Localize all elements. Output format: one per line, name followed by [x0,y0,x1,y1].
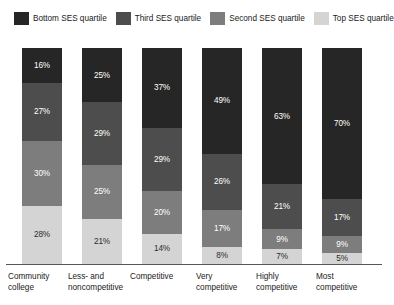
segment-value-label: 49% [214,96,230,105]
segment-value-label: 29% [154,155,170,164]
segment-value-label: 25% [94,187,110,196]
legend-label-third-ses-quartile: Third SES quartile [135,14,201,24]
segment-second-ses-quartile: 20% [142,191,182,234]
segment-bottom-ses-quartile: 63% [262,48,302,184]
segment-third-ses-quartile: 26% [202,154,242,210]
segment-value-label: 7% [276,252,288,261]
bar-column-competitive: 37% 29% 20% 14% [142,48,182,264]
legend-label-top-ses-quartile: Top SES quartile [333,14,394,24]
segment-top-ses-quartile: 14% [142,234,182,264]
segment-value-label: 28% [34,230,50,239]
segment-value-label: 25% [94,71,110,80]
segment-top-ses-quartile: 28% [22,206,62,264]
segment-value-label: 17% [214,224,230,233]
legend-swatch-top-ses-quartile [314,12,329,25]
legend-item-third-ses-quartile: Third SES quartile [116,12,201,25]
legend-item-top-ses-quartile: Top SES quartile [314,12,394,25]
segment-value-label: 9% [276,235,288,244]
segment-value-label: 27% [34,107,50,116]
segment-value-label: 9% [336,240,348,249]
bar-column-very-competitive: 49% 26% 17% 8% [202,48,242,264]
legend-label-bottom-ses-quartile: Bottom SES quartile [33,14,107,24]
stacked-bar: 37% 29% 20% 14% [142,48,182,264]
chart-legend: Bottom SES quartile Third SES quartile S… [14,11,376,26]
segment-value-label: 26% [214,177,230,186]
segment-value-label: 5% [336,254,348,263]
stacked-bar: 49% 26% 17% 8% [202,48,242,264]
segment-value-label: 70% [334,119,350,128]
segment-second-ses-quartile: 17% [202,210,242,247]
legend-swatch-second-ses-quartile [210,12,225,25]
plot-area: 16% 27% 30% 28% 25% 29% [0,48,387,264]
segment-top-ses-quartile: 21% [82,219,122,264]
x-axis-label-most-competitive: Most competitive [316,271,370,293]
legend-item-bottom-ses-quartile: Bottom SES quartile [14,12,107,25]
segment-third-ses-quartile: 17% [322,199,362,236]
segment-third-ses-quartile: 29% [142,128,182,191]
x-axis-label-competitive: Competitive [130,271,188,282]
stacked-bar: 25% 29% 25% 21% [82,48,122,264]
bar-column-community-college: 16% 27% 30% 28% [22,48,62,264]
legend-label-second-ses-quartile: Second SES quartile [229,14,305,24]
bar-column-less-and-noncompetitive: 25% 29% 25% 21% [82,48,122,264]
segment-value-label: 29% [94,129,110,138]
legend-swatch-third-ses-quartile [116,12,131,25]
segment-value-label: 8% [216,251,228,260]
segment-top-ses-quartile: 7% [262,249,302,264]
segment-third-ses-quartile: 29% [82,102,122,165]
stacked-bar: 63% 21% 9% 7% [262,48,302,264]
bar-column-most-competitive: 70% 17% 9% 5% [322,48,362,264]
segment-third-ses-quartile: 27% [22,83,62,141]
legend-swatch-bottom-ses-quartile [14,12,29,25]
segment-value-label: 14% [154,244,170,253]
segment-value-label: 30% [34,169,50,178]
segment-second-ses-quartile: 9% [322,236,362,253]
segment-bottom-ses-quartile: 25% [82,48,122,102]
legend-item-second-ses-quartile: Second SES quartile [210,12,305,25]
stacked-bar: 16% 27% 30% 28% [22,48,62,264]
segment-value-label: 16% [34,61,50,70]
segment-bottom-ses-quartile: 70% [322,48,362,199]
segment-third-ses-quartile: 21% [262,184,302,229]
bar-column-highly-competitive: 63% 21% 9% 7% [262,48,302,264]
segment-top-ses-quartile: 5% [322,253,362,264]
x-axis-label-very-competitive: Very competitive [196,271,248,293]
segment-value-label: 21% [94,237,110,246]
x-axis-line [6,264,382,265]
segment-top-ses-quartile: 8% [202,247,242,264]
stacked-bar: 70% 17% 9% 5% [322,48,362,264]
segment-second-ses-quartile: 9% [262,229,302,248]
segment-value-label: 63% [274,112,290,121]
x-axis-label-community-college: Community college [8,271,62,293]
segment-second-ses-quartile: 30% [22,141,62,206]
segment-bottom-ses-quartile: 37% [142,48,182,128]
segment-value-label: 37% [154,83,170,92]
segment-value-label: 21% [274,202,290,211]
segment-value-label: 17% [334,213,350,222]
x-axis-label-highly-competitive: Highly competitive [256,271,310,293]
segment-value-label: 20% [154,208,170,217]
segment-bottom-ses-quartile: 16% [22,48,62,83]
segment-second-ses-quartile: 25% [82,165,122,219]
segment-bottom-ses-quartile: 49% [202,48,242,154]
x-axis-label-less-and-noncompetitive: Less- and noncompetitive [68,271,128,293]
